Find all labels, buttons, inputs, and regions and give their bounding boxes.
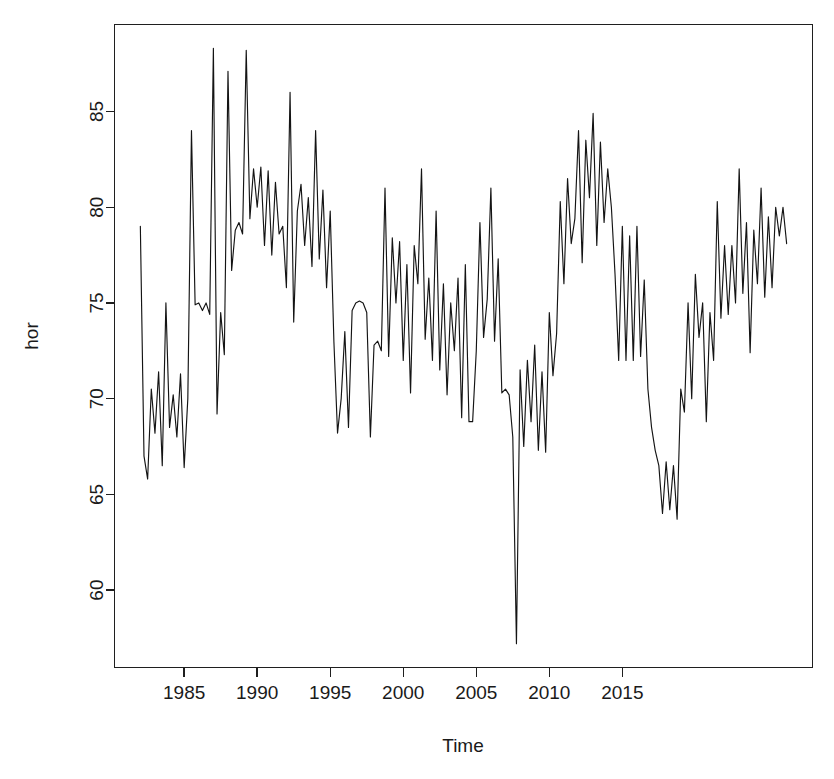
x-axis-ticks: 1985199019952000200520102015 [163,668,643,703]
x-tick-label: 1985 [163,682,205,703]
x-tick-label: 1990 [236,682,278,703]
x-tick-label: 2010 [528,682,570,703]
y-tick-label: 60 [86,580,107,601]
y-tick-label: 65 [86,484,107,505]
y-tick-label: 70 [86,388,107,409]
x-tick-label: 1995 [309,682,351,703]
x-tick-label: 2015 [601,682,643,703]
chart-figure: 606570758085 198519901995200020052010201… [0,0,834,779]
y-axis-title: hor [21,322,42,350]
y-tick-label: 85 [86,101,107,122]
series-line-hor [140,48,786,643]
x-tick-label: 2005 [455,682,497,703]
y-tick-label: 80 [86,197,107,218]
x-axis-title: Time [442,735,484,756]
timeseries-plot: 606570758085 198519901995200020052010201… [0,0,834,779]
y-tick-label: 75 [86,292,107,313]
y-axis-ticks: 606570758085 [86,101,115,601]
x-tick-label: 2000 [382,682,424,703]
